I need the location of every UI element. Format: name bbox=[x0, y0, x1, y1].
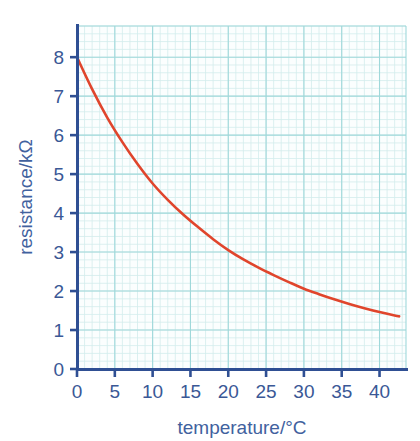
y-axis-ticks bbox=[70, 57, 77, 369]
thermistor-resistance-chart-figure: 012345678 0510152025303540 temperature/°… bbox=[0, 0, 420, 441]
x-tick-label: 30 bbox=[293, 381, 314, 402]
x-tick-label: 20 bbox=[218, 381, 239, 402]
y-tick-label: 8 bbox=[53, 47, 64, 68]
x-tick-label: 25 bbox=[256, 381, 277, 402]
x-tick-label: 40 bbox=[369, 381, 390, 402]
y-tick-label: 7 bbox=[53, 86, 64, 107]
y-axis-title: resistance/kΩ bbox=[15, 139, 36, 255]
x-axis-tick-labels: 0510152025303540 bbox=[72, 381, 390, 402]
x-axis-title: temperature/°C bbox=[177, 417, 306, 438]
chart-svg: 012345678 0510152025303540 temperature/°… bbox=[0, 0, 420, 441]
y-tick-label: 2 bbox=[53, 281, 64, 302]
y-tick-label: 1 bbox=[53, 320, 64, 341]
x-tick-label: 5 bbox=[110, 381, 121, 402]
y-tick-label: 0 bbox=[53, 359, 64, 380]
y-axis-tick-labels: 012345678 bbox=[53, 47, 64, 380]
y-tick-label: 6 bbox=[53, 125, 64, 146]
x-tick-label: 15 bbox=[180, 381, 201, 402]
y-tick-label: 3 bbox=[53, 242, 64, 263]
x-tick-label: 35 bbox=[331, 381, 352, 402]
y-tick-label: 5 bbox=[53, 164, 64, 185]
x-tick-label: 0 bbox=[72, 381, 83, 402]
y-tick-label: 4 bbox=[53, 203, 64, 224]
x-tick-label: 10 bbox=[142, 381, 163, 402]
